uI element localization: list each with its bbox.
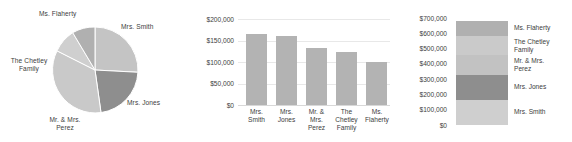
- stack-ytick-300000: $300,000: [395, 76, 447, 84]
- stack-ytick-0: $0: [395, 122, 447, 130]
- gridline-0: [238, 105, 390, 106]
- bar-xtick-ms-flaherty: Ms. Flaherty: [359, 108, 395, 124]
- bar-xtick-mrs-smith: Mrs. Smith: [240, 108, 273, 124]
- stack-segment-mr-and-mrs-perez: [456, 55, 508, 75]
- bar-xtick-mrs-jones: Mrs. Jones: [270, 108, 303, 124]
- stack-segment-the-chetley-family: [456, 36, 508, 55]
- stack-legend-mrs-jones: Mrs. Jones: [514, 83, 546, 91]
- stack-ytick-600000: $600,000: [395, 30, 447, 38]
- pie-chart-panel: Mrs. Smith Mrs. Jones Mr. & Mrs. Perez T…: [0, 0, 190, 142]
- stack-legend-the-chetley-family: The Chetley Family: [514, 38, 550, 54]
- bar-xtick-mr-and-mrs-perez: Mr. & Mrs. Perez: [300, 108, 333, 133]
- bar-ytick-200000: $200,000: [190, 16, 234, 24]
- bar-mrs-smith: [246, 34, 267, 105]
- bar-ytick-0: $0: [190, 102, 234, 110]
- bar-ms-flaherty: [366, 62, 387, 105]
- stack-segment-mrs-smith: [456, 100, 508, 125]
- stack-legend-ms-flaherty: Ms. Flaherty: [514, 24, 550, 32]
- bar-ytick-150000: $150,000: [190, 37, 234, 45]
- stack-legend-mrs-smith: Mrs. Smith: [514, 108, 546, 116]
- stack-ytick-400000: $400,000: [395, 60, 447, 68]
- stack-ytick-100000: $100,000: [395, 106, 447, 114]
- pie-label-mrs-jones: Mrs. Jones: [127, 99, 160, 107]
- pie-label-ms-flaherty: Ms. Flaherty: [39, 10, 76, 18]
- bar-mr-and-mrs-perez: [306, 48, 327, 105]
- bar-chart-panel: $200,000 $150,000 $100,000 $50,000 $0 Mr…: [190, 0, 395, 142]
- stack-segment-ms-flaherty: [456, 21, 508, 36]
- stack-ytick-200000: $200,000: [395, 91, 447, 99]
- bar-ytick-50000: $50,000: [190, 80, 234, 88]
- gridline-200000: [238, 19, 390, 20]
- pie-slice-mrs-smith: [95, 27, 138, 72]
- stack-ytick-500000: $500,000: [395, 45, 447, 53]
- pie-label-the-chetley-family: The Chetley Family: [3, 57, 55, 73]
- stack-legend-mr-and-mrs-perez: Mr. & Mrs. Perez: [514, 57, 544, 73]
- bar-ytick-100000: $100,000: [190, 59, 234, 67]
- pie-label-mrs-smith: Mrs. Smith: [121, 23, 154, 31]
- pie-label-mr-and-mrs-perez: Mr. & Mrs. Perez: [36, 116, 94, 132]
- stack-ytick-700000: $700,000: [395, 15, 447, 23]
- bar-the-chetley-family: [336, 52, 357, 105]
- stack-segment-mrs-jones: [456, 75, 508, 100]
- stacked-bar-chart-panel: $700,000 $600,000 $500,000 $400,000 $300…: [395, 0, 572, 142]
- three-chart-figure: Mrs. Smith Mrs. Jones Mr. & Mrs. Perez T…: [0, 0, 572, 142]
- bar-mrs-jones: [276, 36, 297, 105]
